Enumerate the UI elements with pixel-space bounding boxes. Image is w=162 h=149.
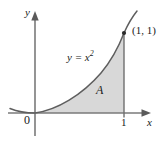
region-label-A: A — [96, 84, 103, 96]
point-marker-1-1 — [122, 31, 126, 35]
y-axis-label: y — [25, 7, 30, 18]
shaded-region-A — [35, 33, 124, 113]
curve-equation-exponent: 2 — [90, 49, 94, 58]
origin-label: 0 — [24, 114, 30, 126]
x-tick-label-1: 1 — [121, 117, 127, 128]
math-figure-area-under-parabola: y x 0 1 y = x2 A (1, 1) — [0, 0, 162, 149]
x-axis-label: x — [147, 117, 152, 128]
point-label-1-1: (1, 1) — [132, 25, 156, 36]
y-axis-arrow-icon — [31, 11, 38, 21]
curve-equation-label: y = x2 — [67, 50, 94, 63]
curve-equation-base: y = x — [67, 51, 90, 63]
